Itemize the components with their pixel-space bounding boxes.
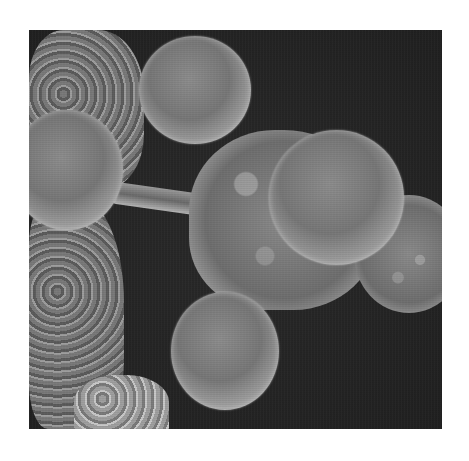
sem-micrograph — [29, 30, 442, 429]
center-right-sphere-cell — [269, 130, 404, 265]
bottom-left-tissue-fragment — [74, 375, 169, 429]
top-center-sphere-cell — [139, 36, 251, 144]
bottom-center-sphere-cell — [171, 292, 279, 410]
